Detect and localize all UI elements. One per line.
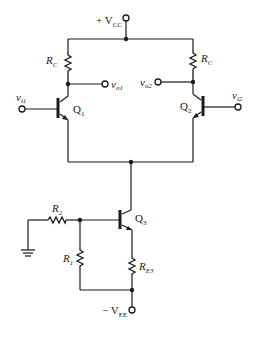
rc-right-label: RC xyxy=(200,52,213,67)
transistor-q1: vi1 Q1 xyxy=(16,84,85,162)
vo2-terminal xyxy=(155,79,161,85)
vi1-terminal xyxy=(19,106,25,112)
vcc-terminal xyxy=(123,15,129,21)
transistor-q3: Q3 xyxy=(120,210,147,256)
q3-label: Q3 xyxy=(135,212,147,227)
vo2-label: vo2 xyxy=(140,76,152,90)
rc-left-label: RC xyxy=(45,54,58,69)
re3-label: RE3 xyxy=(138,260,154,275)
vcc-supply: + VCC xyxy=(96,14,129,39)
vi1-label: vi1 xyxy=(16,91,26,105)
circuit-diagram: + VCC RC RC vo1 vo2 xyxy=(0,0,258,342)
vo1-label: vo1 xyxy=(111,78,123,92)
resistor-r2: R2 xyxy=(48,202,66,223)
vo1-terminal xyxy=(102,81,108,87)
vee-supply: − VEE xyxy=(80,276,135,319)
vi2-terminal xyxy=(235,104,241,110)
bias-network: R2 R1 xyxy=(21,202,120,290)
emitter-rail xyxy=(68,160,193,210)
vi2-label: vi2 xyxy=(232,89,243,103)
vee-label: − VEE xyxy=(102,304,127,319)
resistor-r1: R1 xyxy=(62,248,83,268)
q1-label: Q1 xyxy=(73,103,85,118)
vee-terminal xyxy=(129,307,135,313)
ground-icon xyxy=(21,250,35,256)
vcc-label: + VCC xyxy=(96,14,122,29)
vo2-output: vo2 xyxy=(140,76,195,90)
resistor-re3: RE3 xyxy=(129,256,154,276)
transistor-q2: vi2 Q2 xyxy=(180,82,243,162)
resistor-rc-left: RC xyxy=(45,52,71,84)
r1-label: R1 xyxy=(62,252,73,267)
resistor-rc-right: RC xyxy=(190,50,213,82)
vo1-output: vo1 xyxy=(66,78,123,92)
top-rail xyxy=(68,37,193,52)
q2-label: Q2 xyxy=(180,100,192,115)
r2-label: R2 xyxy=(51,202,63,217)
